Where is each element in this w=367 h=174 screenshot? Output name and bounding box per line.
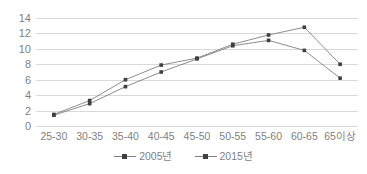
- series-2005년: [52, 25, 342, 116]
- y-tick-label: 0: [25, 121, 31, 132]
- x-tick-label: 35-40: [112, 130, 139, 143]
- legend-item[interactable]: 2005년: [114, 150, 172, 162]
- y-tick-label: 2: [25, 105, 31, 116]
- data-point-marker: [88, 102, 92, 106]
- legend-label: 2015년: [220, 150, 253, 162]
- data-point-marker: [303, 25, 307, 29]
- chart-legend: 2005년2015년: [0, 150, 367, 162]
- data-point-marker: [195, 57, 199, 61]
- legend-item[interactable]: 2015년: [195, 150, 253, 162]
- data-point-marker: [52, 113, 56, 117]
- plot-area: [36, 18, 358, 126]
- data-point-marker: [303, 49, 307, 53]
- y-tick-label: 4: [25, 90, 31, 101]
- x-tick-label: 60-65: [291, 130, 318, 143]
- data-point-marker: [159, 63, 163, 67]
- legend-marker-icon: [195, 152, 217, 161]
- series-line: [54, 27, 340, 114]
- axis-baseline: [36, 126, 358, 127]
- y-tick-label: 12: [19, 28, 31, 39]
- x-tick-label: 40-45: [148, 130, 175, 143]
- x-tick-label: 30-35: [76, 130, 103, 143]
- series-line: [54, 40, 340, 115]
- y-tick-label: 8: [25, 59, 31, 70]
- legend-marker-icon: [114, 152, 136, 161]
- y-tick-label: 10: [19, 43, 31, 54]
- line-chart: 14121086420 25-3030-3535-4040-4545-5050-…: [0, 0, 367, 174]
- data-point-marker: [338, 62, 342, 66]
- data-point-marker: [267, 33, 271, 37]
- y-tick-label: 14: [19, 13, 31, 24]
- data-point-marker: [231, 44, 235, 48]
- y-axis: 14121086420: [0, 18, 31, 126]
- x-axis: 25-3030-3535-4040-4545-5050-5555-6060-65…: [36, 130, 358, 146]
- x-tick-label: 55-60: [255, 130, 282, 143]
- x-tick-label: 25-30: [40, 130, 67, 143]
- data-point-marker: [159, 70, 163, 74]
- data-point-marker: [88, 99, 92, 103]
- data-point-marker: [124, 78, 128, 82]
- data-point-marker: [124, 85, 128, 89]
- series-layer: [36, 18, 358, 126]
- series-2015년: [52, 39, 342, 117]
- x-tick-label: 50-55: [219, 130, 246, 143]
- legend-label: 2005년: [139, 150, 172, 162]
- data-point-marker: [267, 39, 271, 43]
- x-tick-label: 45-50: [184, 130, 211, 143]
- x-tick-label: 65이상: [324, 130, 356, 143]
- y-tick-label: 6: [25, 74, 31, 85]
- data-point-marker: [338, 76, 342, 80]
